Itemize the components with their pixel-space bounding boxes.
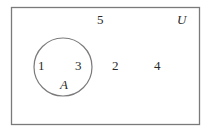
element-1-label: 1 (38, 58, 45, 73)
set-a-label: A (59, 77, 68, 92)
element-2-label: 2 (112, 58, 119, 73)
element-3-label: 3 (75, 58, 82, 73)
venn-diagram: 5 U 1 3 A 2 4 (0, 0, 210, 133)
element-5-label: 5 (97, 12, 104, 27)
universe-label: U (177, 12, 188, 27)
element-4-label: 4 (154, 58, 161, 73)
